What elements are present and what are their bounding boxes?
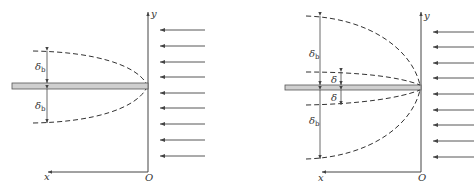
left-y-axis-label: y [150, 8, 157, 19]
left-origin-label: O [145, 172, 153, 183]
right-panel: y x O δb δb δ δ [285, 10, 474, 183]
boundary-layer-diagram: y x O δb δb [0, 0, 474, 191]
left-flat-plate [12, 83, 148, 89]
right-inner-lower-curve [306, 90, 420, 105]
right-inner-upper-curve [306, 72, 420, 85]
right-flat-plate [285, 85, 421, 90]
right-origin-label: O [418, 172, 426, 183]
right-outer-lower-delta-b-label: δb [309, 115, 320, 128]
right-inner-lower-delta-label: δ [331, 92, 337, 103]
left-lower-boundary-curve [33, 89, 146, 123]
right-flow-arrows [433, 32, 474, 157]
right-outer-lower-curve [306, 90, 420, 159]
right-y-axis-label: y [423, 10, 430, 21]
right-inner-upper-delta-label: δ [331, 74, 337, 85]
left-upper-delta-b-label: δb [35, 61, 46, 74]
left-panel: y x O δb δb [12, 8, 205, 183]
left-lower-delta-b-label: δb [35, 100, 46, 113]
right-x-axis-label: x [318, 172, 324, 183]
left-upper-boundary-curve [33, 51, 146, 83]
left-flow-arrows [160, 30, 205, 156]
right-outer-upper-delta-b-label: δb [309, 48, 320, 61]
left-x-axis-label: x [44, 171, 50, 182]
